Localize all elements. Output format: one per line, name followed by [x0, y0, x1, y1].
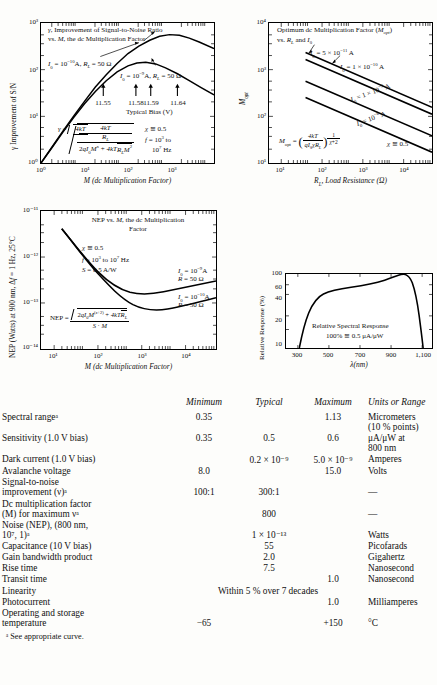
chart2-x-tick: 10³ [352, 166, 374, 174]
chart2-y-tick: 10² [242, 112, 266, 120]
table-row: Avalanche voltage 8.0 15.0 Volts [0, 466, 437, 477]
chart3-series-label-2-r: R = 50 Ω [178, 301, 204, 310]
chart1-x-tick: 10¹ [74, 166, 96, 174]
chart2-title: Optimum dc Multiplication Factor (Mopt) … [277, 26, 397, 47]
table-row: Operating and storage temperature −65 +1… [0, 607, 437, 628]
table-header-row: Minimum Typical Maximum Units or Range [0, 396, 437, 411]
chart2-x-tick: 10¹ [269, 166, 291, 174]
chart4-x-tick: 1,100 [410, 351, 436, 359]
row-units: — [366, 477, 437, 498]
chart4-y-tick: 60 [260, 283, 282, 291]
chart4-subtitle: 100% ≅ 0.5 μA/μW [326, 332, 383, 341]
row-units: Amperes [366, 453, 437, 465]
chart3-y-tick: 10⁻¹³ [12, 298, 38, 306]
row-maximum [300, 498, 366, 519]
row-minimum [170, 540, 238, 551]
chart4-title: Relative Spectral Response [312, 322, 389, 331]
chart3-chi-annotation: χ ≅ 0.5 [82, 244, 103, 253]
chart2-x-axis-label: RL, Load Resistance (Ω) [268, 176, 433, 187]
chart3-series-label-1-r: R = 50 Ω [178, 275, 204, 284]
chart1-frequency-annotation-2: 107 Hz [152, 145, 171, 155]
column-header-parameter [0, 396, 170, 411]
chart2-series-label-1: I0 = 5 × 10−11 A [310, 48, 354, 60]
row-minimum [170, 519, 238, 540]
row-minimum: −65 [170, 607, 238, 628]
row-typical: 55 [238, 540, 300, 551]
chart3-y-tick: 10⁻¹² [12, 252, 38, 260]
row-units: Nanosecond [366, 563, 437, 574]
row-maximum: 5.0 × 10⁻⁹ [300, 453, 366, 465]
table-row: Rise time 7.5 Nanosecond [0, 563, 437, 574]
table-footnote: ᵃ See appropriate curve. [0, 629, 437, 641]
row-typical: 0.2 × 10⁻⁹ [238, 453, 300, 465]
chart4-y-tick: 100 [260, 269, 282, 277]
row-units: Gigahertz [366, 552, 437, 563]
chart3-title: NEP vs. M, the dc Multiplication Factor [88, 216, 188, 234]
chart1-series-label-2: I0 = 10−9A, RL = 50 Ω [120, 71, 181, 83]
chart4-x-axis-label: λ(nm) [285, 360, 433, 369]
row-minimum [170, 453, 238, 465]
column-header-maximum: Maximum [300, 396, 366, 411]
table-row: Sensitivity (1.0 V bias) 0.35 0.5 0.6 μA… [0, 432, 437, 453]
row-parameter: Spectral rangeᵃ [0, 411, 170, 432]
row-typical: 2.0 [238, 552, 300, 563]
chart1-y-tick: 10¹ [14, 112, 38, 120]
table-row: Linearity Within 5 % over 7 decades [0, 585, 437, 596]
column-header-minimum: Minimum [170, 396, 238, 411]
row-maximum [300, 563, 366, 574]
row-units: Watts [366, 519, 437, 540]
chart-snr-improvement: γ Improvement of S/N 10³ 10² 10¹ 10⁰ [0, 0, 220, 185]
specifications-table-container: Minimum Typical Maximum Units or Range S… [0, 396, 437, 641]
chart4-x-tick: 700 [349, 351, 371, 359]
chart1-bias-tick: 11.64 [162, 99, 194, 107]
chart1-formula-detail: 4kT RL 2qI0Mx + 4kTRLM2 [72, 123, 134, 155]
chart3-y-tick: 10⁻¹¹ [12, 206, 38, 214]
row-typical [238, 466, 300, 477]
row-typical [238, 574, 300, 585]
chart2-x-tick: 10⁴ [393, 166, 415, 174]
row-parameter: Operating and storage temperature [0, 607, 170, 628]
chart4-x-tick: 500 [317, 351, 339, 359]
table-row: Gain bandwidth product 2.0 Gigahertz [0, 552, 437, 563]
row-minimum: 100:1 [170, 477, 238, 498]
row-units: °C [366, 607, 437, 628]
row-typical [238, 607, 300, 628]
row-maximum [300, 519, 366, 540]
chart2-y-tick: 10¹ [242, 158, 266, 166]
row-minimum [170, 498, 238, 519]
chart3-x-axis-label: M (dc Multiplication Factor) [40, 362, 217, 371]
chart4-y-tick: 20 [260, 316, 282, 324]
chart1-title: γ, Improvement of Signal-to-Noise Ratio … [48, 26, 168, 44]
chart3-y-tick: 10⁻¹⁴ [12, 343, 38, 351]
chart-spectral-response: Relative Response (%) 100 60 40 20 10 [248, 268, 437, 368]
chart1-y-tick: 10² [14, 66, 38, 74]
row-maximum: 15.0 [300, 466, 366, 477]
chart1-chi-annotation: χ ≅ 0.5 [145, 125, 166, 134]
chart3-x-tick: 10² [87, 352, 109, 360]
row-minimum [170, 596, 238, 607]
row-parameter: Linearity [0, 585, 170, 596]
row-units: Milliamperes [366, 596, 437, 607]
row-typical: 300:1 [238, 477, 300, 498]
table-row: Noise (NEP), (800 nm, 10⁷, 1)ᵃ 1 × 10⁻¹³… [0, 519, 437, 540]
row-maximum: +150 [300, 607, 366, 628]
row-typical: 1 × 10⁻¹³ [238, 519, 300, 540]
row-parameter: Dark current (1.0 V bias) [0, 453, 170, 465]
row-maximum [300, 540, 366, 551]
row-units: Nanosecond [366, 574, 437, 585]
table-row: Capacitance (10 V bias) 55 Picofarads [0, 540, 437, 551]
row-spanned-value: Within 5 % over 7 decades [170, 585, 366, 596]
table-row: Dark current (1.0 V bias) 0.2 × 10⁻⁹ 5.0… [0, 453, 437, 465]
chart1-y-tick: 10⁰ [14, 158, 38, 166]
row-parameter: Photocurrent [0, 596, 170, 607]
specifications-table: Minimum Typical Maximum Units or Range S… [0, 396, 437, 629]
chart3-x-tick: 10⁴ [175, 352, 197, 360]
chart3-frequency-annotation: f = 103 to 107 Hz [82, 255, 129, 265]
row-typical: 800 [238, 498, 300, 519]
row-minimum: 0.35 [170, 432, 238, 453]
chart3-sensitivity-annotation: S = 0.5 A/W [82, 266, 117, 275]
row-maximum: 0.6 [300, 432, 366, 453]
chart1-x-tick: 10³ [161, 166, 183, 174]
row-typical [238, 411, 300, 432]
chart4-y-axis-label: Relative Response (%) [258, 296, 266, 360]
